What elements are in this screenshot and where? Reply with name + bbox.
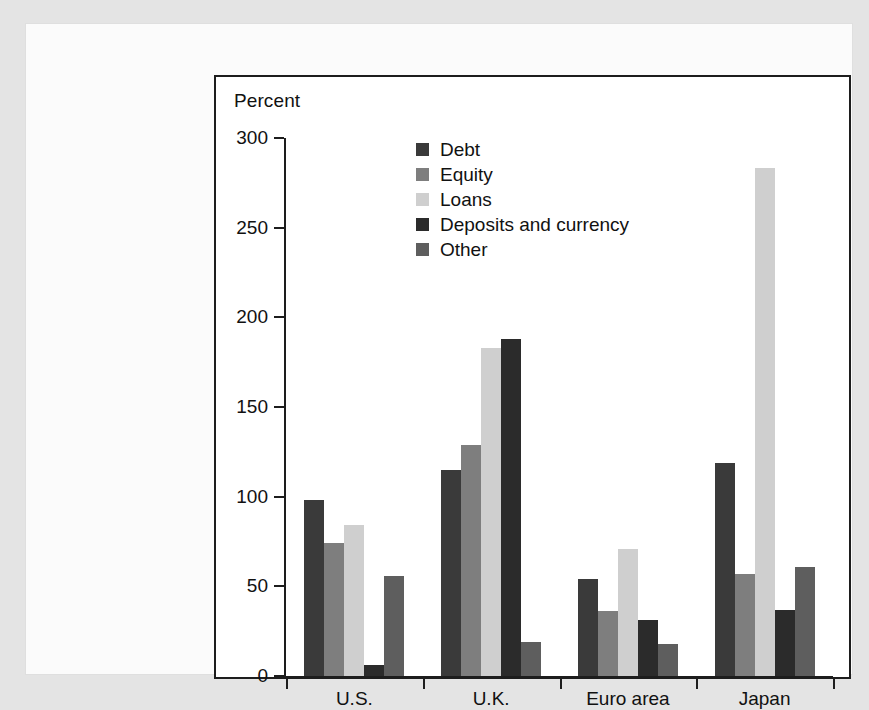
legend-label: Deposits and currency (440, 214, 629, 236)
bar (304, 500, 324, 676)
bar (578, 579, 598, 676)
x-axis-category-label: Japan (739, 688, 791, 710)
legend-swatch-icon (416, 193, 429, 206)
bar (344, 525, 364, 676)
x-axis-tick-mark (833, 678, 835, 689)
bar (481, 348, 501, 676)
legend-label: Loans (440, 189, 492, 211)
legend-label: Debt (440, 139, 480, 161)
chart-figure: Percent 050100150200250300 U.S.U.K.Euro … (214, 75, 851, 679)
bar (441, 470, 461, 676)
bar (735, 574, 755, 676)
bar (775, 610, 795, 676)
scanned-page-sheet: Percent 050100150200250300 U.S.U.K.Euro … (26, 24, 852, 674)
plot-area: Percent 050100150200250300 U.S.U.K.Euro … (216, 77, 849, 677)
x-axis-category-label: U.K. (473, 688, 510, 710)
legend-item: Other (416, 237, 629, 262)
x-axis-tick-mark (423, 678, 425, 689)
legend-swatch-icon (416, 243, 429, 256)
legend-item: Equity (416, 162, 629, 187)
legend-swatch-icon (416, 218, 429, 231)
bar (715, 463, 735, 676)
legend-item: Deposits and currency (416, 212, 629, 237)
legend-swatch-icon (416, 168, 429, 181)
legend-swatch-icon (416, 143, 429, 156)
bar (364, 665, 384, 676)
bar (521, 642, 541, 676)
x-axis-category-label: U.S. (336, 688, 373, 710)
legend-label: Equity (440, 164, 493, 186)
bar (461, 445, 481, 676)
bar (598, 611, 618, 676)
bar (501, 339, 521, 676)
bar (755, 168, 775, 676)
bar (324, 543, 344, 676)
chart-legend: DebtEquityLoansDeposits and currencyOthe… (416, 137, 629, 262)
bar (795, 567, 815, 676)
bar (638, 620, 658, 676)
bar (658, 644, 678, 676)
bar (618, 549, 638, 676)
x-axis-tick-mark (560, 678, 562, 689)
bar (384, 576, 404, 676)
x-axis-tick-mark (286, 678, 288, 689)
x-axis-tick-mark (696, 678, 698, 689)
legend-item: Debt (416, 137, 629, 162)
legend-item: Loans (416, 187, 629, 212)
x-axis-category-label: Euro area (586, 688, 669, 710)
legend-label: Other (440, 239, 488, 261)
